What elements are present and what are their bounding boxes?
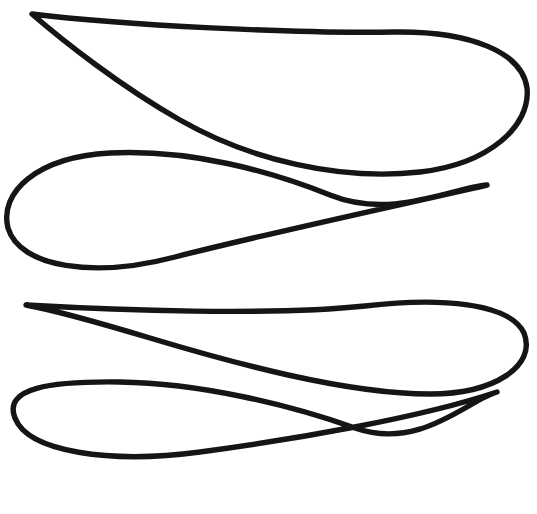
canvas-background xyxy=(0,0,537,514)
line-drawing-svg xyxy=(0,0,537,514)
drawing-canvas xyxy=(0,0,537,514)
